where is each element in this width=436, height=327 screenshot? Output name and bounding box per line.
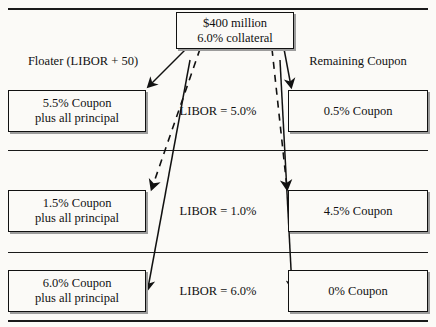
diagram-canvas: $400 million 6.0% collateral Floater (LI… [0,0,436,327]
collateral-rate: 6.0% collateral [197,31,273,46]
column-header-remaining-coupon: Remaining Coupon [288,54,428,69]
row2-center-label: LIBOR = 1.0% [158,204,278,219]
collateral-box: $400 million 6.0% collateral [176,12,294,49]
wire-solid-top-left [149,49,186,86]
row3-left-line1: 6.0% Coupon [43,276,112,291]
collateral-amount: $400 million [203,16,267,31]
row2-left-line1: 1.5% Coupon [43,196,112,211]
row1-left-box: 5.5% Coupon plus all principal [8,90,146,132]
wire-solid-long-left [148,60,190,288]
floater-header-line1: Floater [28,54,63,68]
row1-left-line1: 5.5% Coupon [43,96,112,111]
floater-header-line2: (LIBOR + 50) [66,54,138,68]
row3-right-box: 0% Coupon [288,270,428,312]
row3-center-label: LIBOR = 6.0% [158,284,278,299]
column-header-floater: Floater (LIBOR + 50) [18,54,148,69]
row3-left-line2: plus all principal [35,291,119,306]
row1-center-label: LIBOR = 5.0% [158,104,278,119]
row2-left-line2: plus all principal [35,211,119,226]
row1-right-line1: 0.5% Coupon [324,104,393,119]
row2-right-line1: 4.5% Coupon [324,204,393,219]
row1-left-line2: plus all principal [35,111,119,126]
row1-right-box: 0.5% Coupon [288,90,428,132]
remaining-coupon-header: Remaining Coupon [309,54,407,68]
row2-left-box: 1.5% Coupon plus all principal [8,190,146,232]
row3-left-box: 6.0% Coupon plus all principal [8,270,146,312]
row3-right-line1: 0% Coupon [328,284,387,299]
row2-right-box: 4.5% Coupon [288,190,428,232]
